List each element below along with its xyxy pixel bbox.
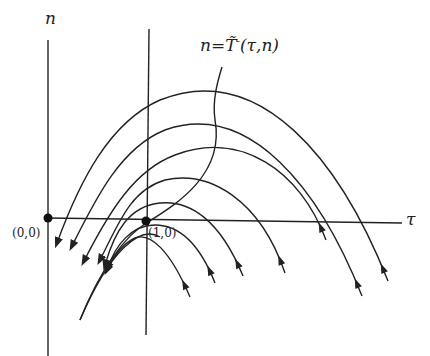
n-axis-label: n [45,8,56,28]
equilibrium-point [142,217,151,226]
flow-arrow-icon [232,257,243,269]
trajectory-0 [57,91,388,281]
point-label: (1,0) [148,226,176,240]
flow-arrow-icon [179,278,190,290]
phase-plane-diagram: n τ (0,0) (1,0) n=T̃-(τ,n) [0,0,430,356]
origin-label: (0,0) [12,226,40,240]
eq-lhs: n [200,35,211,55]
eq-args: (τ,n) [240,35,279,55]
trajectory-1 [72,124,362,296]
tau-axis [48,218,402,223]
flow-arrow-icon [352,277,362,289]
flow-arrow-icon [315,221,325,233]
eq-T: T̃ [225,35,236,55]
flow-arrow-icon [204,264,214,276]
trajectory-3 [100,178,285,273]
flow-arrow-icon [378,262,388,274]
trajectories [57,91,388,320]
vertical-line-tau-1 [146,29,149,335]
origin-point [44,214,53,223]
eq-sign: = [211,35,225,55]
curve-equation-label: n=T̃-(τ,n) [200,35,279,55]
flow-arrow-icon [275,254,285,266]
tau-axis-label: τ [406,209,415,229]
